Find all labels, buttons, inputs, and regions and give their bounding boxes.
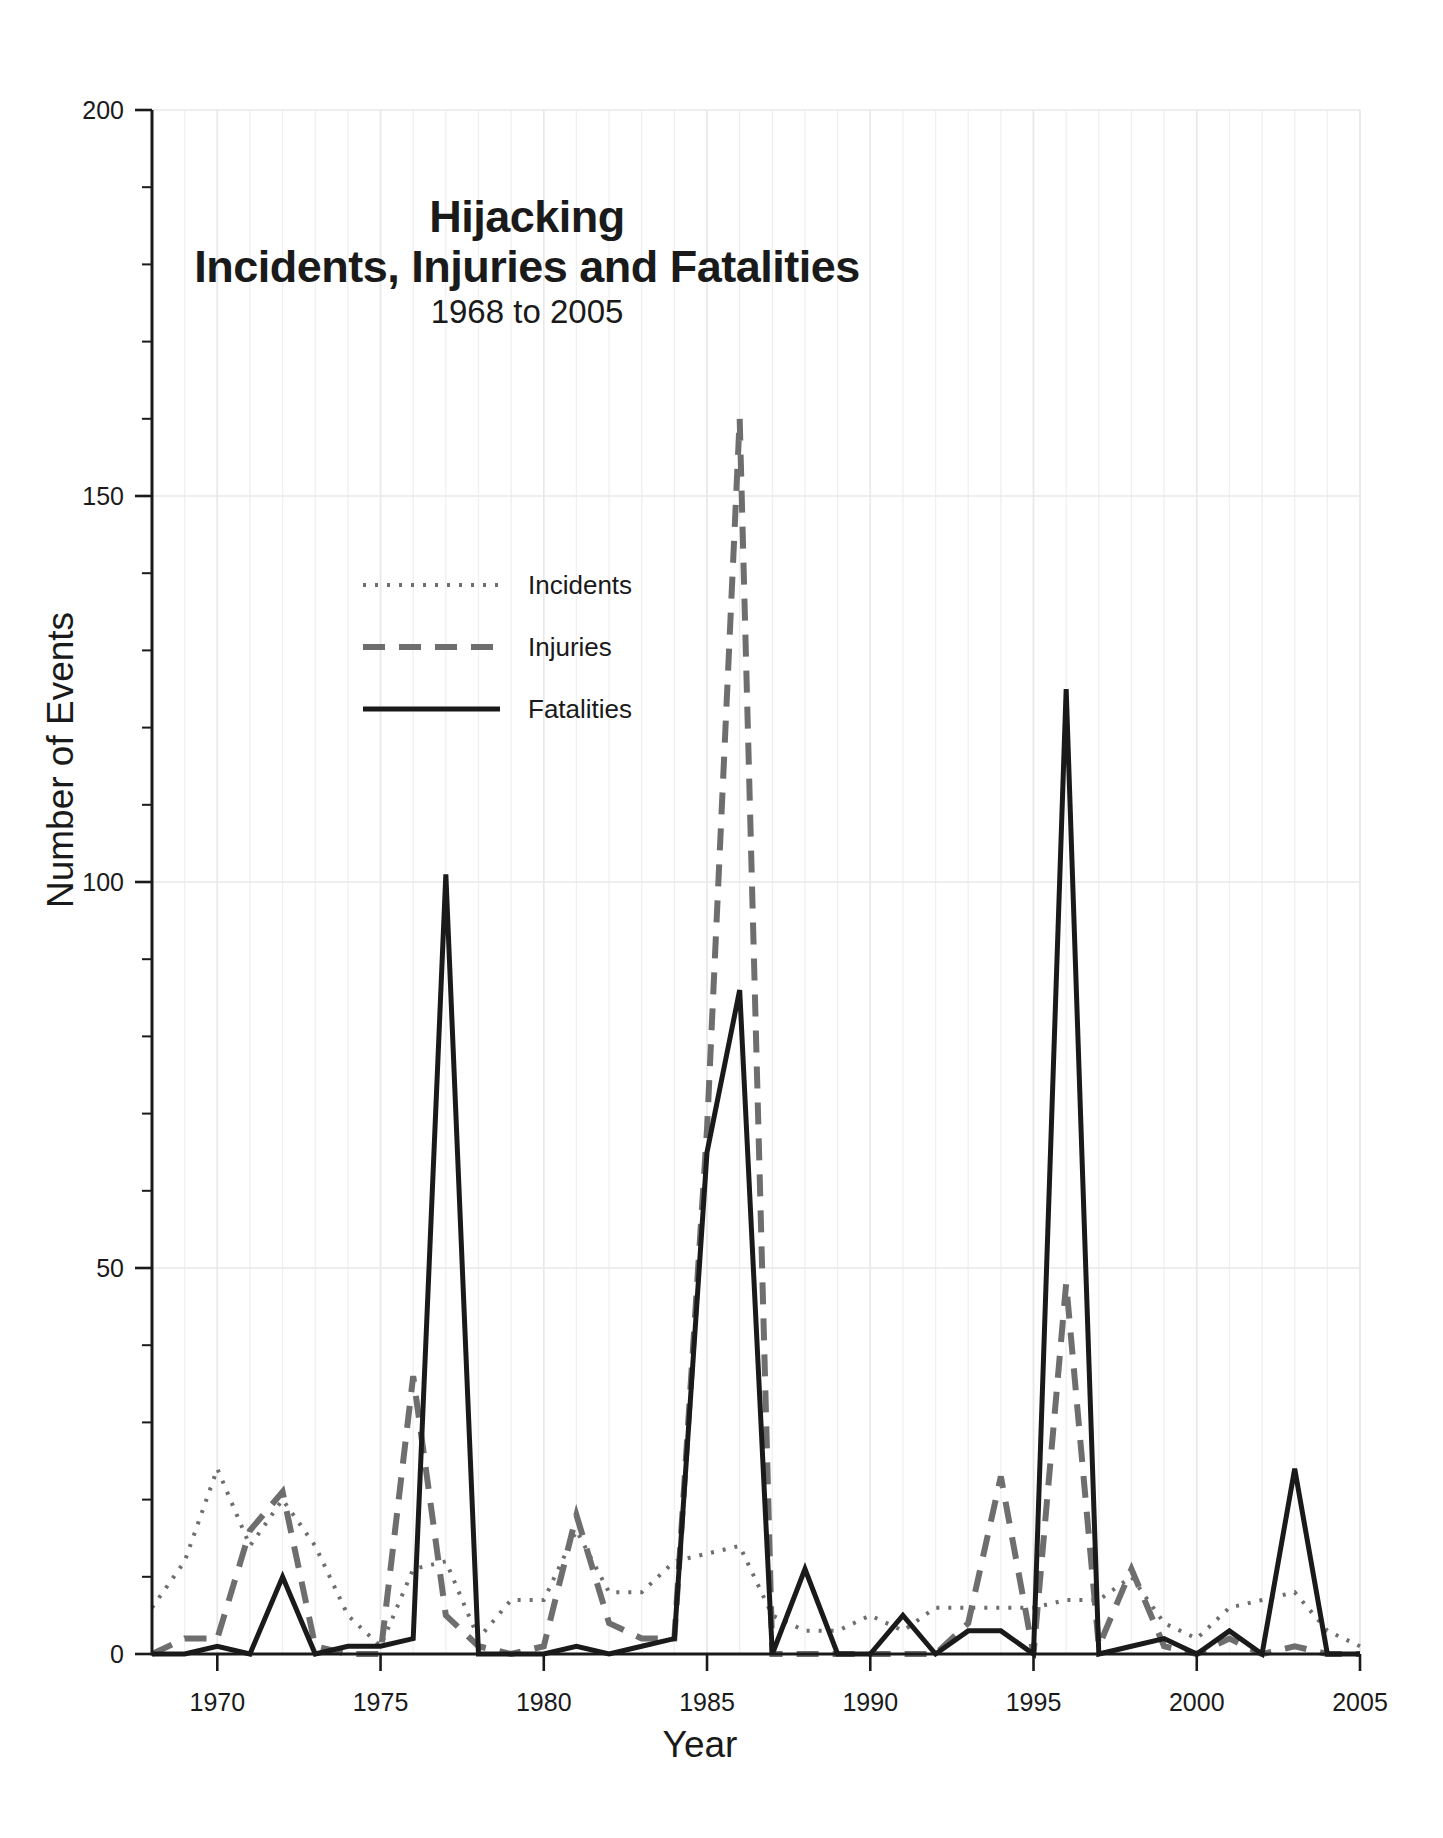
y-tick-label: 100 [82,868,124,896]
x-tick-label: 1975 [353,1688,409,1716]
y-tick-label: 200 [82,96,124,124]
chart-figure: 0501001502001970197519801985199019952000… [0,0,1443,1838]
series-line-incidents [152,1469,1360,1647]
chart-subtitle: 1968 to 2005 [431,293,624,330]
x-tick-label: 1985 [679,1688,735,1716]
y-tick-label: 50 [96,1254,124,1282]
chart-title-line2: Incidents, Injuries and Fatalities [194,241,860,292]
series-group [152,419,1360,1654]
tick-labels-group: 0501001502001970197519801985199019952000… [82,96,1388,1716]
y-tick-label: 150 [82,482,124,510]
x-tick-label: 1970 [189,1688,245,1716]
series-line-injuries [152,419,1360,1654]
series-line-fatalities [152,689,1360,1654]
x-tick-label: 1980 [516,1688,572,1716]
line-chart: 0501001502001970197519801985199019952000… [0,0,1443,1838]
x-tick-label: 2000 [1169,1688,1225,1716]
axes-group [135,110,1360,1671]
legend-label-fatalities: Fatalities [528,694,632,724]
x-tick-label: 1995 [1006,1688,1062,1716]
x-axis-title: Year [663,1724,738,1765]
legend-label-injuries: Injuries [528,632,612,662]
legend-label-incidents: Incidents [528,570,632,600]
chart-legend: IncidentsInjuriesFatalities [363,570,632,724]
x-tick-label: 2005 [1332,1688,1388,1716]
x-tick-label: 1990 [842,1688,898,1716]
y-tick-label: 0 [110,1640,124,1668]
chart-title-line1: Hijacking [429,191,625,242]
y-axis-title: Number of Events [40,612,81,908]
